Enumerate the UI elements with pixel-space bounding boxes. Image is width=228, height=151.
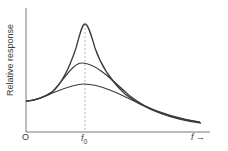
origin-label: O: [22, 132, 29, 142]
y-axis-label: Relative response: [5, 26, 15, 96]
f0-label-sub: 0: [84, 138, 88, 145]
resonance-plot: [0, 0, 228, 151]
curve-low-q: [26, 84, 200, 122]
f0-label: f0: [81, 133, 87, 145]
curve-high-q: [26, 24, 201, 123]
resonance-figure: Relative response O f0 f →: [0, 0, 228, 151]
arrow-right-icon: →: [196, 132, 205, 142]
x-axis-label-text: f: [191, 132, 194, 142]
x-axis-label: f →: [191, 132, 205, 142]
